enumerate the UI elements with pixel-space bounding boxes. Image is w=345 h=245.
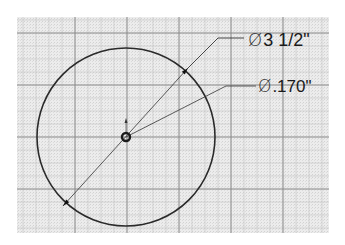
outer-diameter-value: 3 1/2" — [263, 30, 309, 50]
diameter-symbol-icon: Ø — [248, 29, 262, 50]
hole-diameter-value: .170" — [272, 77, 311, 96]
outer-diameter-label[interactable]: Ø3 1/2" — [248, 31, 310, 49]
diameter-symbol-icon: Ø — [258, 76, 271, 96]
hole-diameter-label[interactable]: Ø.170" — [258, 78, 312, 95]
